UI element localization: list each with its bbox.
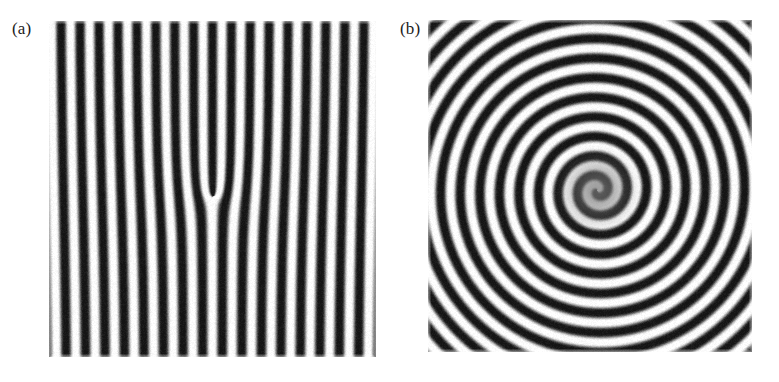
panel-b-image-spiral-wave (428, 20, 752, 352)
panel-a-image-stripe-dislocation (49, 21, 376, 357)
panel-a: (a) (0, 0, 390, 382)
panel-b-label: (b) (400, 20, 420, 37)
panel-b: (b) (390, 0, 779, 382)
figure-root: (a) (b) (0, 0, 779, 382)
panel-a-label: (a) (12, 20, 31, 37)
